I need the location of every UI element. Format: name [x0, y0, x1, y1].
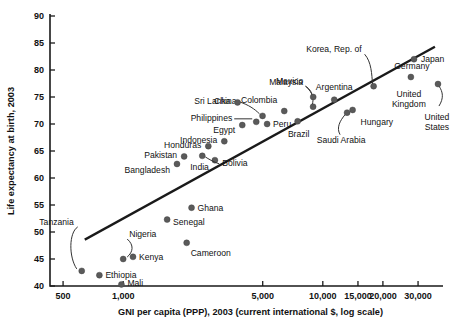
data-point-label: Saudi Arabia [317, 135, 366, 145]
data-point-label: Mali [127, 278, 143, 288]
data-point-label: UnitedStates [425, 112, 450, 132]
data-point-group: Peru [264, 119, 291, 129]
scatter-plot: 40455055606570758085905001,0005,00010,00… [0, 0, 454, 335]
data-point-label: India [190, 162, 209, 172]
data-point-label: Nigeria [129, 229, 156, 239]
data-point-marker [120, 256, 126, 262]
data-point-marker [408, 74, 414, 80]
y-axis-tick-label: 80 [34, 65, 44, 75]
y-axis-tick-label: 50 [34, 227, 44, 237]
y-axis-tick-label: 70 [34, 119, 44, 129]
data-point-group: Philippines [191, 113, 260, 125]
data-point-marker [435, 81, 441, 87]
data-point-marker [184, 240, 190, 246]
data-point-marker [310, 104, 316, 110]
data-point-marker [199, 153, 205, 159]
data-point-marker [164, 217, 170, 223]
label-leader-line [439, 86, 442, 106]
data-point-group: Kenya [130, 252, 164, 262]
data-point-label: Egypt [213, 125, 236, 135]
y-axis-tick-label: 60 [34, 173, 44, 183]
data-point-label: Pakistan [144, 150, 177, 160]
y-axis-title: Life expectancy at birth, 2003 [6, 87, 16, 215]
y-axis-tick-label: 75 [34, 92, 44, 102]
data-point-marker [239, 122, 245, 128]
chart-figure: 40455055606570758085905001,0005,00010,00… [0, 0, 454, 335]
x-axis-title: GNI per capita (PPP), 2003 (current inte… [118, 307, 383, 317]
data-point-label: Bangladesh [125, 165, 171, 175]
y-axis-tick-label: 90 [34, 11, 44, 21]
label-leader-line [338, 115, 345, 135]
data-point-label: Argentina [316, 82, 353, 92]
x-axis-tick-label: 15,000 [344, 291, 372, 301]
data-point-label: Ghana [198, 203, 224, 213]
data-point-marker [350, 107, 356, 113]
y-axis-tick-label: 85 [34, 38, 44, 48]
data-point-group: Tanzania [39, 217, 84, 274]
data-point-group: Mexico [276, 76, 316, 100]
data-point-group: Hungary [350, 107, 394, 127]
data-point-group: Ghana [189, 203, 224, 213]
label-leader-line [71, 227, 78, 269]
data-point-label: Peru [273, 119, 291, 129]
data-point-group: Cameroon [184, 240, 231, 258]
y-axis-tick-label: 40 [34, 281, 44, 291]
data-point-label: Kenya [139, 252, 164, 262]
x-axis-tick-label: 1,000 [112, 291, 135, 301]
x-axis-tick-label: 30,000 [404, 291, 432, 301]
data-point-group: Senegal [164, 217, 205, 227]
data-point-marker [281, 108, 287, 114]
label-leader-line [365, 54, 373, 84]
data-point-group: Germany [394, 61, 430, 80]
data-point-label-united-kingdom: UnitedKingdom [392, 89, 426, 109]
data-point-group: Indonesia [180, 135, 227, 145]
data-point-marker [310, 94, 316, 100]
x-axis-tick-label: 10,000 [309, 291, 337, 301]
data-point-label: Sri Lanka [194, 96, 231, 106]
data-point-label: Indonesia [180, 135, 217, 145]
data-point-marker [344, 110, 350, 116]
trend-line [86, 47, 434, 239]
data-point-label: Colombia [241, 95, 278, 105]
data-point-marker [264, 121, 270, 127]
data-point-label: Hungary [361, 117, 394, 127]
data-point-marker [130, 254, 136, 260]
data-point-group: Saudi Arabia [317, 110, 366, 145]
data-point-marker [174, 161, 180, 167]
x-axis-tick-label: 500 [56, 291, 71, 301]
data-point-label: Brazil [288, 129, 310, 139]
data-point-group: Argentina [316, 82, 353, 103]
x-axis-tick-label: 5,000 [251, 291, 274, 301]
data-point-marker [331, 97, 337, 103]
data-point-marker [118, 281, 124, 287]
data-point-marker [221, 138, 227, 144]
data-point-group: Bangladesh [125, 161, 180, 175]
data-point-marker [181, 153, 187, 159]
x-axis-tick-label: 20,000 [369, 291, 397, 301]
data-point-marker [189, 205, 195, 211]
data-point-label: Cameroon [191, 248, 231, 258]
y-axis-tick-label: 45 [34, 254, 44, 264]
data-point-label: Korea, Rep. of [306, 44, 362, 54]
data-point-label: Germany [394, 61, 430, 71]
data-point-marker [79, 268, 85, 274]
data-point-label: Bolivia [222, 158, 248, 168]
data-point-label: Senegal [173, 217, 205, 227]
data-point-label: Tanzania [39, 217, 74, 227]
data-point-marker [371, 83, 377, 89]
data-point-marker [235, 99, 241, 105]
data-point-marker [260, 113, 266, 119]
y-axis-tick-label: 65 [34, 146, 44, 156]
data-point-marker [295, 118, 301, 124]
data-point-marker [253, 119, 259, 125]
data-point-label: Philippines [191, 113, 233, 123]
data-point-group: Egypt [213, 122, 245, 135]
data-point-group: Colombia [241, 95, 287, 114]
data-point-label: Mexico [276, 76, 303, 86]
data-point-group: Pakistan [144, 150, 187, 160]
data-point-marker [96, 272, 102, 278]
data-point-group: UnitedStates [425, 81, 450, 132]
y-axis-tick-label: 55 [34, 200, 44, 210]
